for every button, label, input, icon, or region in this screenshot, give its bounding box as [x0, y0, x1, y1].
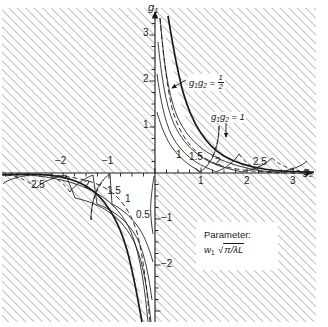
y-tick-label-minus2: −2	[161, 259, 172, 269]
x-tick-label-1: 1	[198, 176, 204, 186]
contour-label-q3-2: 2	[84, 180, 90, 190]
annotation-g1g2-one: g1g2 = 1	[210, 112, 246, 123]
parameter-legend-box: Parameter: w1 √π/λL	[199, 226, 256, 261]
annotation-g1g2-half: g1g2 = 12	[188, 74, 225, 91]
parameter-title: Parameter:	[204, 229, 251, 241]
plot-canvas	[0, 0, 328, 327]
sqrt-icon: √π/λL	[217, 243, 244, 256]
contour-label-q3-0_5: 0.5	[136, 210, 150, 220]
y-tick-label-1: 1	[143, 120, 149, 130]
contour-label-q3-2_5: 2.5	[31, 180, 45, 190]
stability-diagram-figure: g2 g1 −2 −1 1 2 3 3 2 1 −1 −2 1 1.5 2 2.…	[0, 0, 328, 327]
x-tick-label-minus2: −2	[55, 156, 66, 166]
x-tick-label-3: 3	[290, 176, 296, 186]
contour-label-q3-1: 1	[125, 194, 131, 204]
x-axis-label: g2	[303, 166, 313, 178]
y-tick-label-minus1: −1	[161, 213, 172, 223]
contour-label-q1-2: 2	[215, 157, 221, 167]
contour-label-q3-1_5: 1.5	[107, 186, 121, 196]
contour-label-q1-2_5: 2.5	[253, 157, 267, 167]
x-tick-label-minus1: −1	[102, 156, 113, 166]
y-tick-label-2: 2	[143, 74, 149, 84]
y-tick-label-3: 3	[143, 28, 149, 38]
contour-label-q1-1: 1	[176, 150, 182, 160]
parameter-formula: w1 √π/λL	[204, 243, 251, 257]
y-axis-label: g1	[148, 2, 158, 14]
x-tick-label-2: 2	[244, 176, 250, 186]
contour-label-q1-1_5: 1.5	[189, 152, 203, 162]
